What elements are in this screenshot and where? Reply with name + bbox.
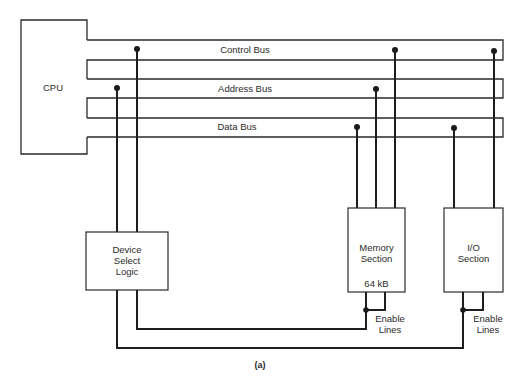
cpu-label: CPU <box>38 82 68 93</box>
control-bus-label: Control Bus <box>210 44 280 55</box>
io-line-2: Section <box>444 253 503 264</box>
address-bus <box>87 79 503 118</box>
io-enable-line-2: Lines <box>468 324 508 335</box>
data-bus-label: Data Bus <box>207 121 267 132</box>
io-enable-line-1: Enable <box>468 313 508 324</box>
junction-dot <box>460 307 466 313</box>
junction-dot <box>451 125 457 131</box>
control-bus <box>87 40 503 79</box>
memory-text: Memory Section <box>348 242 405 264</box>
figure-caption: (a) <box>250 360 270 371</box>
io-enable-text: Enable Lines <box>468 313 508 335</box>
memory-enable-wire <box>137 290 366 329</box>
memory-enable-text: Enable Lines <box>370 313 410 335</box>
junction-dot <box>354 124 360 130</box>
io-enable-lines <box>463 292 483 310</box>
memory-size-label: 64 kB <box>348 278 405 289</box>
junction-dot <box>491 48 497 54</box>
io-enable-wire <box>117 290 463 348</box>
device-select-line-1: Device <box>86 244 168 255</box>
junction-dot <box>363 307 369 313</box>
junction-dot <box>114 85 120 91</box>
memory-line-1: Memory <box>348 242 405 253</box>
bus-architecture-diagram <box>0 0 523 381</box>
io-text: I/O Section <box>444 242 503 264</box>
data-bus <box>87 118 503 137</box>
memory-enable-line-1: Enable <box>370 313 410 324</box>
memory-enable-line-2: Lines <box>370 324 410 335</box>
device-select-line-3: Logic <box>86 266 168 277</box>
memory-enable-lines <box>366 292 385 310</box>
junction-dot <box>134 46 140 52</box>
io-line-1: I/O <box>444 242 503 253</box>
memory-line-2: Section <box>348 253 405 264</box>
junction-dot <box>373 86 379 92</box>
device-select-line-2: Select <box>86 255 168 266</box>
junction-dot <box>392 47 398 53</box>
device-select-text: Device Select Logic <box>86 244 168 277</box>
address-bus-label: Address Bus <box>210 83 280 94</box>
